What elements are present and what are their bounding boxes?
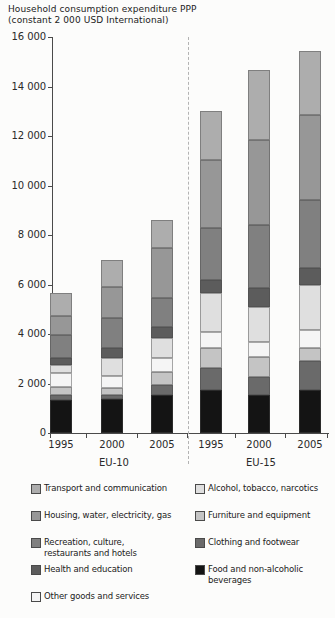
x-axis-tick bbox=[285, 434, 286, 438]
y-axis-tick-label: 0 bbox=[2, 427, 46, 438]
legend-label-alcohol-tobacco-narcotics: Alcohol, tobacco, narcotics bbox=[208, 483, 318, 494]
y-axis-tick-label: 10 000 bbox=[2, 180, 46, 191]
y-axis-tick bbox=[48, 87, 52, 88]
bar-segment-alcohol-tobacco-narcotics bbox=[101, 358, 123, 376]
bar-segment-clothing-and-footwear bbox=[101, 395, 123, 399]
bar-segment-recreation-culture-restaurants-and-hotels bbox=[151, 298, 173, 327]
bar-segment-housing-water-electricity-gas bbox=[248, 140, 270, 225]
legend-swatch-alcohol-tobacco-narcotics bbox=[195, 484, 205, 494]
x-axis-year-label: 2005 bbox=[142, 439, 182, 450]
bar-segment-alcohol-tobacco-narcotics bbox=[50, 365, 72, 373]
bar-segment-recreation-culture-restaurants-and-hotels bbox=[248, 225, 270, 288]
bar-segment-furniture-and-equipment bbox=[50, 387, 72, 395]
bar-segment-transport-and-communication bbox=[101, 260, 123, 287]
chart-title-line1: Household consumption expenditure PPP bbox=[8, 4, 197, 15]
bar-segment-housing-water-electricity-gas bbox=[151, 248, 173, 298]
y-axis-tick-label: 6 000 bbox=[2, 279, 46, 290]
bar-segment-other-goods-and-services bbox=[101, 376, 123, 388]
bar-segment-furniture-and-equipment bbox=[101, 388, 123, 395]
bar-segment-recreation-culture-restaurants-and-hotels bbox=[101, 318, 123, 348]
bar-segment-health-and-education bbox=[248, 288, 270, 307]
x-axis-year-label: 2000 bbox=[92, 439, 132, 450]
bar-segment-food-and-non-alcoholic-beverages bbox=[200, 390, 222, 433]
x-axis-year-label: 2005 bbox=[290, 439, 330, 450]
x-axis-year-label: 1995 bbox=[41, 439, 81, 450]
y-axis-tick bbox=[48, 136, 52, 137]
bar-segment-furniture-and-equipment bbox=[200, 348, 222, 368]
legend-swatch-housing-water-electricity-gas bbox=[31, 511, 41, 521]
y-axis-tick bbox=[48, 285, 52, 286]
bar-segment-food-and-non-alcoholic-beverages bbox=[151, 395, 173, 433]
bar-segment-health-and-education bbox=[151, 327, 173, 338]
legend-label-housing-water-electricity-gas: Housing, water, electricity, gas bbox=[44, 510, 171, 521]
bar-segment-alcohol-tobacco-narcotics bbox=[151, 338, 173, 358]
bar-segment-health-and-education bbox=[200, 280, 222, 293]
bar-segment-other-goods-and-services bbox=[299, 330, 321, 348]
x-axis-tick bbox=[137, 434, 138, 438]
bar-segment-clothing-and-footwear bbox=[151, 385, 173, 395]
bar-segment-other-goods-and-services bbox=[248, 342, 270, 357]
bar-segment-other-goods-and-services bbox=[151, 358, 173, 372]
bar-segment-housing-water-electricity-gas bbox=[200, 160, 222, 228]
group-label-eu10: EU-10 bbox=[84, 457, 144, 468]
legend-label-food-and-non-alcoholic-beverages: Food and non-alcoholic beverages bbox=[208, 564, 303, 586]
group-label-eu15: EU-15 bbox=[231, 457, 291, 468]
bar-segment-furniture-and-equipment bbox=[248, 357, 270, 377]
legend-swatch-health-and-education bbox=[31, 565, 41, 575]
bar-segment-transport-and-communication bbox=[50, 293, 72, 316]
x-axis-tick bbox=[187, 434, 188, 438]
legend-label-recreation-culture-restaurants-and-hotels: Recreation, culture, restaurants and hot… bbox=[44, 537, 137, 559]
bar-segment-transport-and-communication bbox=[248, 70, 270, 139]
bar-segment-health-and-education bbox=[101, 348, 123, 358]
y-axis-tick-label: 12 000 bbox=[2, 130, 46, 141]
bar-segment-clothing-and-footwear bbox=[299, 361, 321, 390]
x-axis-year-label: 2000 bbox=[239, 439, 279, 450]
legend-swatch-furniture-and-equipment bbox=[195, 511, 205, 521]
bar-segment-clothing-and-footwear bbox=[50, 395, 72, 400]
bar-segment-health-and-education bbox=[299, 268, 321, 285]
y-axis-tick-label: 8 000 bbox=[2, 229, 46, 240]
legend-swatch-transport-and-communication bbox=[31, 484, 41, 494]
legend-label-clothing-and-footwear: Clothing and footwear bbox=[208, 537, 299, 548]
y-axis-tick-label: 2 000 bbox=[2, 378, 46, 389]
x-axis-year-label: 1995 bbox=[191, 439, 231, 450]
bar-segment-clothing-and-footwear bbox=[200, 368, 222, 390]
legend-label-health-and-education: Health and education bbox=[44, 564, 132, 575]
bar-segment-recreation-culture-restaurants-and-hotels bbox=[50, 335, 72, 358]
legend-label-transport-and-communication: Transport and communication bbox=[44, 483, 167, 494]
chart-title-line2: (constant 2 000 USD International) bbox=[8, 15, 169, 26]
x-axis-tick bbox=[327, 434, 328, 438]
group-divider-dashed-line bbox=[188, 37, 189, 464]
bar-segment-housing-water-electricity-gas bbox=[101, 287, 123, 318]
bar-segment-alcohol-tobacco-narcotics bbox=[248, 307, 270, 342]
bar-segment-clothing-and-footwear bbox=[248, 377, 270, 395]
bar-segment-other-goods-and-services bbox=[200, 332, 222, 348]
legend-label-furniture-and-equipment: Furniture and equipment bbox=[208, 510, 310, 521]
bar-segment-other-goods-and-services bbox=[50, 373, 72, 387]
x-axis-tick bbox=[86, 434, 87, 438]
y-axis-tick bbox=[48, 235, 52, 236]
bar-segment-health-and-education bbox=[50, 358, 72, 365]
legend-swatch-recreation-culture-restaurants-and-hotels bbox=[31, 538, 41, 548]
bar-segment-food-and-non-alcoholic-beverages bbox=[50, 400, 72, 433]
bar-segment-recreation-culture-restaurants-and-hotels bbox=[299, 200, 321, 268]
bar-segment-housing-water-electricity-gas bbox=[299, 115, 321, 200]
y-axis-tick-label: 14 000 bbox=[2, 81, 46, 92]
y-axis-tick bbox=[48, 186, 52, 187]
bar-segment-transport-and-communication bbox=[299, 51, 321, 115]
y-axis-tick bbox=[48, 37, 52, 38]
bar-segment-furniture-and-equipment bbox=[299, 348, 321, 361]
bar-segment-alcohol-tobacco-narcotics bbox=[299, 285, 321, 330]
bar-segment-food-and-non-alcoholic-beverages bbox=[101, 399, 123, 433]
bar-segment-transport-and-communication bbox=[151, 220, 173, 248]
bar-segment-food-and-non-alcoholic-beverages bbox=[248, 395, 270, 433]
bar-segment-housing-water-electricity-gas bbox=[50, 316, 72, 335]
chart-page: Household consumption expenditure PPP (c… bbox=[0, 0, 335, 618]
x-axis-tick bbox=[50, 434, 51, 438]
bar-segment-furniture-and-equipment bbox=[151, 372, 173, 385]
bar-segment-recreation-culture-restaurants-and-hotels bbox=[200, 228, 222, 280]
legend-label-other-goods-and-services: Other goods and services bbox=[44, 591, 149, 602]
legend-swatch-clothing-and-footwear bbox=[195, 538, 205, 548]
bar-segment-transport-and-communication bbox=[200, 111, 222, 160]
bar-segment-food-and-non-alcoholic-beverages bbox=[299, 390, 321, 433]
